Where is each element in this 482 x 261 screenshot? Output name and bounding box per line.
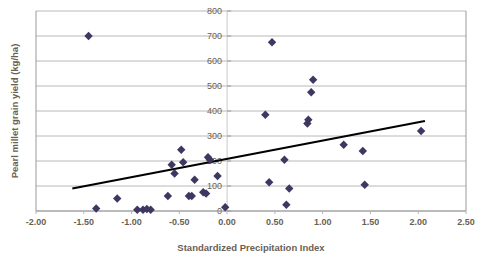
scatter-chart: 0100200300400500600700800-2.00-1.50-1.00… xyxy=(0,0,482,261)
y-axis-tick-label: 700 xyxy=(207,31,222,41)
x-axis-tick-label: 1.50 xyxy=(362,217,380,227)
x-axis-tick-label: -2.00 xyxy=(26,217,47,227)
y-axis-tick-label: 300 xyxy=(207,131,222,141)
x-axis-tick-label: 0.00 xyxy=(218,217,236,227)
y-axis-tick-label: 100 xyxy=(207,181,222,191)
y-axis: 0100200300400500600700800 xyxy=(207,6,231,216)
y-axis-title: Pearl millet grain yield (kg/ha) xyxy=(9,44,20,179)
x-axis-tick-label: 2.50 xyxy=(457,217,475,227)
x-axis-tick-label: 1.00 xyxy=(314,217,332,227)
x-axis-title: Standardized Precipitation Index xyxy=(177,242,325,253)
x-axis: -2.00-1.50-1.00-0.500.000.501.001.502.00… xyxy=(26,211,475,227)
x-axis-tick-label: -1.00 xyxy=(121,217,142,227)
y-axis-tick-label: 400 xyxy=(207,106,222,116)
x-axis-tick-label: 2.00 xyxy=(409,217,427,227)
x-axis-tick-label: -1.50 xyxy=(74,217,95,227)
x-axis-tick-label: -0.50 xyxy=(169,217,190,227)
y-axis-tick-label: 600 xyxy=(207,56,222,66)
x-axis-tick-label: 0.50 xyxy=(266,217,284,227)
y-axis-tick-label: 800 xyxy=(207,6,222,16)
y-axis-tick-label: 500 xyxy=(207,81,222,91)
chart-canvas: 0100200300400500600700800-2.00-1.50-1.00… xyxy=(0,0,482,261)
